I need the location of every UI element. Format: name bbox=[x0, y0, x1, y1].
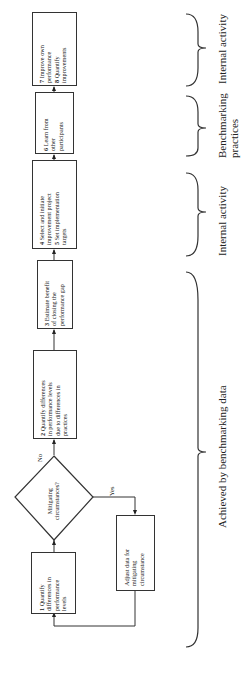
step-1-text: Quantify bbox=[38, 584, 45, 606]
step-1-box: 1 Quantify differences in performance le… bbox=[31, 552, 76, 614]
step-3-text-cont: of closing the bbox=[50, 281, 57, 326]
step-1-text-cont: performance bbox=[53, 577, 60, 611]
adjust-text: Adjust data for bbox=[123, 549, 130, 586]
brace-label-benchmarking-data: Achieved by benchmarking data bbox=[216, 385, 228, 528]
brace-label-line1: Benchmarking bbox=[216, 93, 228, 158]
step-5-number: 5 bbox=[53, 242, 60, 245]
arrow-up-icon bbox=[52, 86, 56, 91]
step-8-number: 8 bbox=[53, 80, 60, 83]
step-3-number: 3 bbox=[43, 323, 50, 326]
step-2-number: 2 bbox=[39, 433, 46, 436]
step-8-text-cont: improvements bbox=[60, 45, 67, 83]
step-5-text-cont: targets bbox=[60, 192, 67, 245]
decision-text-cont: circumstances? bbox=[53, 482, 60, 520]
arrow-up-icon bbox=[52, 249, 56, 254]
step-4-number: 4 bbox=[38, 242, 45, 245]
brace-label-line2: practices bbox=[228, 93, 240, 158]
step-6-box: 6 Learn from other participants bbox=[35, 92, 74, 154]
yes-label: Yes bbox=[108, 487, 115, 496]
step-6-text-cont: other bbox=[49, 118, 56, 151]
step-7-number: 7 bbox=[38, 80, 45, 83]
step-2-text-cont: due to differences in bbox=[54, 380, 61, 436]
step-5-text: Set implementation bbox=[53, 192, 60, 240]
no-label: No bbox=[36, 454, 43, 462]
brace-label-internal-activity-1: Internal activity bbox=[216, 14, 228, 84]
step-2-text-cont: in performance levels bbox=[46, 380, 53, 436]
step-2-box: 2 Quantify differences in performance le… bbox=[33, 350, 77, 439]
step-6-text: Learn from bbox=[42, 118, 49, 146]
adjust-data-box: Adjust data for mitigating circumstance bbox=[116, 515, 155, 591]
step-4-text: Select and initiate bbox=[38, 196, 45, 240]
brace-label-benchmarking-practices: Benchmarking practices bbox=[216, 93, 240, 158]
step-7-text-cont: performance bbox=[45, 45, 52, 83]
step-7-text: Improve own bbox=[38, 45, 45, 78]
step-1-number: 1 bbox=[38, 608, 45, 611]
arrow-up-icon bbox=[52, 329, 56, 334]
step-2-text: Quantify differences bbox=[39, 380, 46, 431]
brace-label-internal-activity-2: Internal activity bbox=[216, 186, 228, 256]
step-6-text-cont: participants bbox=[57, 118, 64, 151]
decision-diamond: Mitigating circumstances? bbox=[46, 482, 61, 520]
step-3-text-cont: performance gap bbox=[58, 281, 65, 326]
decision-text: Mitigating bbox=[46, 482, 53, 520]
step-1-text-cont: differences in bbox=[45, 577, 52, 611]
step-3-box: 3 Estimate benefit of closing the perfor… bbox=[37, 260, 73, 329]
adjust-text-cont: circumstance bbox=[138, 549, 145, 586]
step-3-text: Estimate benefit bbox=[43, 281, 50, 321]
step-8-text: Quantify bbox=[53, 56, 60, 78]
step-1-text-cont: levels bbox=[60, 577, 67, 611]
arrow-up-icon bbox=[52, 439, 56, 444]
arrow-up-icon bbox=[52, 154, 56, 159]
step-4-text-cont: improvement project bbox=[45, 192, 52, 245]
step-6-number: 6 bbox=[42, 148, 49, 151]
adjust-text-cont: mitigating bbox=[130, 549, 137, 586]
step-7-8-box: 7 Improve own performance 8 Quantify imp… bbox=[32, 12, 77, 86]
brace-1 bbox=[186, 14, 206, 86]
step-4-5-box: 4 Select and initiate improvement projec… bbox=[32, 160, 77, 249]
step-2-text-cont: practices bbox=[61, 380, 68, 436]
arrow-up-icon bbox=[52, 540, 56, 545]
